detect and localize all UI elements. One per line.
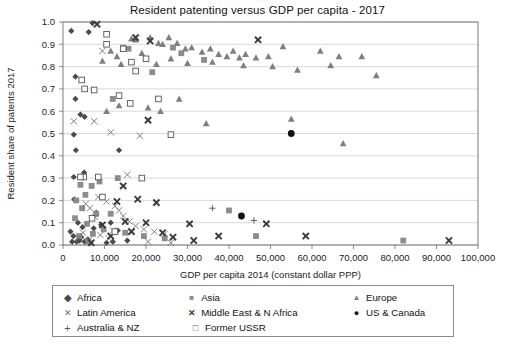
legend-item-us-canada[interactable]: ●US & Canada [350, 307, 447, 318]
data-point [182, 45, 189, 51]
data-point [115, 175, 121, 181]
x-tick-label: 40,000 [214, 252, 243, 263]
data-point [72, 215, 78, 221]
data-point [129, 59, 135, 65]
data-point [79, 77, 85, 83]
y-tick-label: 0.2 [42, 195, 55, 206]
data-point [263, 221, 269, 227]
data-point [71, 132, 77, 138]
marker-circle-filled-icon: ● [350, 308, 363, 318]
legend-item-latin-america[interactable]: ✕Latin America [61, 307, 185, 318]
data-point [168, 132, 174, 138]
data-point [446, 237, 452, 243]
data-point [303, 233, 309, 239]
data-point [207, 45, 214, 51]
data-point [91, 87, 97, 93]
data-point [265, 53, 272, 59]
data-point [78, 174, 84, 180]
data-point [78, 182, 84, 188]
data-point [99, 58, 106, 64]
marker-square-filled-icon: ■ [185, 293, 198, 303]
data-point [141, 226, 147, 232]
data-point [91, 118, 97, 124]
data-point [89, 183, 95, 189]
data-point [71, 118, 77, 124]
legend-label: Middle East & N Africa [201, 307, 297, 318]
data-point [138, 50, 145, 56]
legend-item-australia-nz[interactable]: +Australia & NZ [61, 322, 189, 333]
data-point [288, 130, 295, 137]
legend-row: ◆Africa■Asia▲Europe [61, 290, 447, 305]
series-europe [99, 34, 380, 146]
data-point [253, 54, 260, 60]
y-axis-title: Resident share of patents 2017 [5, 67, 16, 199]
legend-label: Asia [201, 292, 220, 303]
x-tick-label: 20,000 [131, 252, 160, 263]
x-tick-label: 10,000 [90, 252, 119, 263]
marker-x-bold-icon: ✕ [185, 308, 198, 318]
legend-label: Australia & NZ [77, 322, 139, 333]
data-point [104, 31, 110, 37]
legend-item-asia[interactable]: ■Asia [185, 292, 350, 303]
data-point [116, 147, 122, 153]
data-point [358, 53, 365, 59]
legend-item-former-ussr[interactable]: □Former USSR [189, 322, 359, 333]
y-tick-label: 0.7 [42, 83, 55, 94]
data-point [160, 230, 166, 236]
data-point [79, 205, 85, 211]
data-point [186, 221, 192, 227]
data-point [97, 232, 103, 238]
marker-square-open-icon: □ [189, 323, 202, 333]
data-point [143, 56, 149, 62]
data-point [128, 229, 134, 235]
y-tick-label: 0.4 [42, 150, 55, 161]
data-point [224, 53, 231, 59]
legend-item-europe[interactable]: ▲Europe [350, 292, 447, 303]
legend-label: Latin America [77, 307, 136, 318]
data-point [141, 233, 147, 239]
chart-legend: ◆Africa■Asia▲Europe✕Latin America✕Middle… [52, 285, 454, 337]
data-point [156, 96, 162, 102]
data-point [126, 46, 132, 52]
data-point [203, 120, 210, 126]
data-point [238, 213, 245, 220]
plot-svg: 010,00020,00030,00040,00050,00060,00070,… [0, 0, 515, 285]
data-point [336, 53, 343, 59]
data-point [108, 220, 114, 226]
legend-row: ✕Latin America✕Middle East & N Africa●US… [61, 305, 447, 320]
data-point [191, 237, 197, 243]
y-tick-label: 0.0 [42, 239, 55, 250]
data-point [86, 29, 92, 35]
data-point [327, 62, 334, 68]
marker-triangle-icon: ▲ [350, 293, 363, 303]
data-point [149, 69, 155, 75]
legend-item-middle-east-n-africa[interactable]: ✕Middle East & N Africa [185, 307, 350, 318]
legend-item-africa[interactable]: ◆Africa [61, 292, 185, 303]
data-point [116, 102, 123, 108]
x-tick-label: 30,000 [173, 252, 202, 263]
data-point [151, 229, 157, 235]
data-point [255, 37, 261, 43]
x-tick-label: 70,000 [339, 252, 368, 263]
data-point [95, 174, 101, 180]
x-tick-label: 60,000 [297, 252, 326, 263]
x-tick-label: 100,000 [461, 252, 495, 263]
data-point [153, 61, 160, 67]
data-point [184, 60, 191, 66]
series-former-ussr [78, 31, 174, 234]
data-point [89, 215, 95, 221]
data-point [176, 95, 183, 101]
y-tick-label: 0.3 [42, 173, 55, 184]
data-point [100, 194, 106, 200]
data-point [188, 44, 195, 50]
data-point [174, 40, 181, 46]
marker-x-thin-icon: ✕ [61, 308, 74, 318]
data-point [240, 62, 247, 68]
data-point [107, 47, 114, 53]
data-point [104, 42, 110, 48]
data-point [72, 96, 78, 102]
y-tick-label: 0.6 [42, 106, 55, 117]
data-point [120, 183, 126, 189]
y-tick-label: 0.5 [42, 128, 55, 139]
data-point [91, 225, 97, 231]
